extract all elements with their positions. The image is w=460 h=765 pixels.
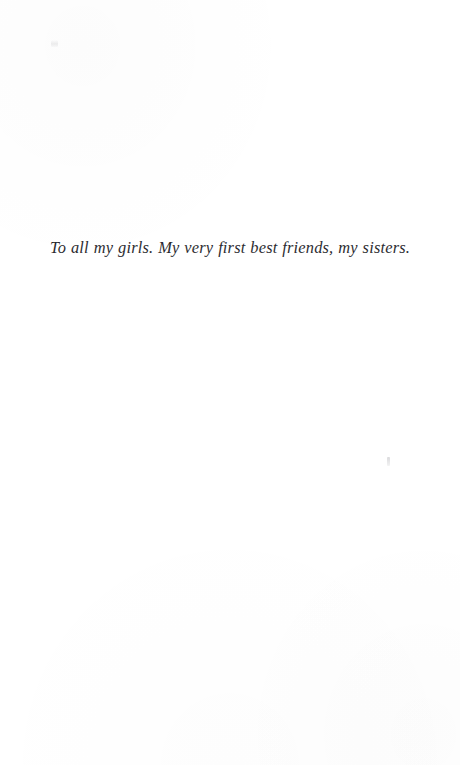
dedication-text: To all my girls. My very first best frie…	[50, 238, 410, 259]
scan-speck-top-left	[51, 40, 58, 47]
dedication-block: To all my girls. My very first best frie…	[0, 222, 460, 275]
dedication-page: To all my girls. My very first best frie…	[0, 0, 460, 765]
scan-speck-right	[387, 457, 390, 466]
paper-texture	[0, 0, 460, 765]
